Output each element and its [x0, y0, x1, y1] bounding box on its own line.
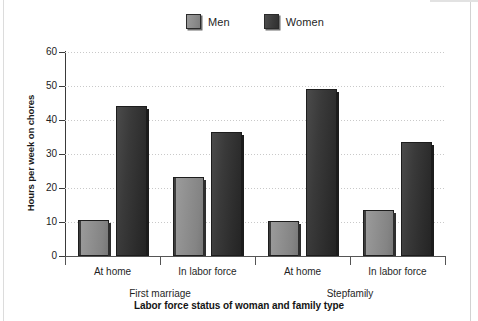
y-axis-tick [59, 52, 65, 53]
bar-women-2 [306, 89, 337, 256]
x-axis-tick [445, 256, 446, 265]
y-axis-tick-label: 30 [31, 148, 57, 159]
x-axis-tick [65, 256, 66, 265]
men-swatch-icon [186, 14, 201, 29]
women-swatch-icon [264, 14, 279, 29]
x-axis-category-label: In labor force [368, 266, 426, 277]
y-axis-tick-label: 50 [31, 80, 57, 91]
bar-men-0 [78, 220, 109, 256]
legend-label-women: Women [286, 16, 324, 28]
bar-women-1 [211, 132, 242, 256]
bar-men-2 [268, 221, 299, 256]
y-axis-tick [59, 120, 65, 121]
x-axis-group-label: First marriage [129, 288, 191, 299]
y-axis-tick-label: 0 [31, 250, 57, 261]
y-axis-tick-label: 40 [31, 114, 57, 125]
y-axis-tick-label: 10 [31, 216, 57, 227]
x-axis-group-label: Stepfamily [327, 288, 374, 299]
x-axis-tick [160, 256, 161, 265]
x-axis-tick [255, 256, 256, 265]
bar-women-3 [401, 142, 432, 256]
x-axis-category-label: In labor force [178, 266, 236, 277]
bar-chart-figure: Men Women Hours per week on chores 01020… [0, 0, 478, 321]
plot-area: 0102030405060 At homeIn labor forceAt ho… [65, 52, 445, 256]
x-axis-title: Labor force status of woman and family t… [0, 300, 478, 311]
gridline [65, 52, 445, 53]
y-axis-tick [59, 188, 65, 189]
bar-men-3 [363, 210, 394, 256]
y-axis-tick-label: 60 [31, 46, 57, 57]
legend-item-women: Women [264, 14, 324, 29]
y-axis-tick [59, 222, 65, 223]
bar-women-0 [116, 106, 147, 256]
x-axis-category-label: At home [94, 266, 131, 277]
y-axis-tick [59, 86, 65, 87]
legend-item-men: Men [186, 14, 230, 29]
y-axis-tick-label: 20 [31, 182, 57, 193]
legend-label-men: Men [208, 16, 230, 28]
x-axis-tick [350, 256, 351, 265]
x-axis-category-label: At home [284, 266, 321, 277]
gridline [65, 86, 445, 87]
chart-legend: Men Women [186, 14, 324, 29]
bar-men-1 [173, 177, 204, 256]
y-axis-tick [59, 154, 65, 155]
